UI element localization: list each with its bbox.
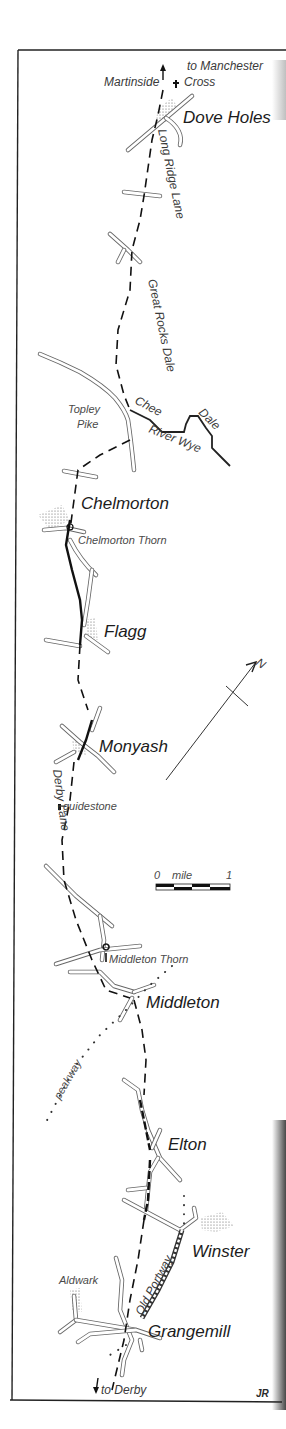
route-line: [62, 64, 166, 1394]
scale-end: 1: [226, 869, 232, 881]
village-stipple-areas: [38, 98, 234, 1312]
label-cross-text: Cross: [184, 75, 215, 89]
label-great-rocks-dale: Great Rocks Dale: [145, 278, 178, 374]
place-labels: to Manchester Martinside Cross Dove Hole…: [50, 59, 271, 1399]
label-to-derby: to Derby: [101, 1383, 147, 1397]
label-river-wye: River Wye: [147, 422, 204, 456]
label-chee: Chee: [133, 393, 165, 419]
label-to-manchester: to Manchester: [187, 59, 264, 73]
label-martinside: Martinside: [104, 75, 160, 89]
label-aldwark: Aldwark: [58, 1274, 99, 1286]
page-edge-shadow-bottom: [272, 1120, 286, 1410]
label-middleton: Middleton: [146, 993, 220, 1012]
label-long-ridge-lane: Long Ridge Lane: [155, 128, 188, 221]
label-middleton-thorn: Middleton Thorn: [109, 953, 189, 965]
north-label: N: [253, 655, 268, 672]
cross-icon: [173, 80, 179, 88]
label-guidestone: guidestone: [63, 800, 117, 812]
label-elton: Elton: [168, 1135, 207, 1154]
signature: JR: [256, 1388, 270, 1399]
label-chelmorton-thorn: Chelmorton Thorn: [78, 534, 167, 546]
route-map: N 0 mile 1 to Manchester Martinside Cros…: [0, 0, 286, 1429]
label-chelmorton: Chelmorton: [81, 494, 169, 513]
scale-bar: 0 mile 1: [154, 869, 232, 890]
label-grangemill: Grangemill: [148, 1322, 231, 1341]
label-dale: Dale: [196, 405, 224, 433]
scale-unit: mile: [172, 869, 192, 881]
label-monyash: Monyash: [99, 737, 168, 756]
roads: [40, 96, 196, 1375]
label-pike: Pike: [77, 418, 98, 430]
label-dove-holes: Dove Holes: [183, 108, 271, 127]
page-edge-shadow: [272, 60, 286, 120]
landmarks: [58, 80, 179, 962]
label-peakway: peakway: [51, 1056, 84, 1102]
scale-start: 0: [154, 869, 161, 881]
label-topley: Topley: [68, 403, 102, 415]
label-flagg: Flagg: [104, 622, 147, 641]
label-winster: Winster: [192, 1242, 251, 1261]
north-arrow: N: [166, 655, 269, 780]
label-old-portway: Old Portway: [132, 1252, 176, 1317]
